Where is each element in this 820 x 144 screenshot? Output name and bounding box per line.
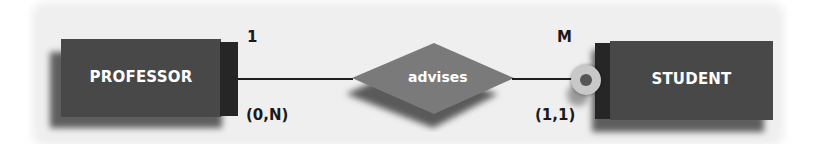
professor-entity-label: PROFESSOR xyxy=(61,68,221,86)
relationship-label: advises xyxy=(408,69,468,85)
left-participation-label: (0,N) xyxy=(246,106,288,124)
professor-relationship-line xyxy=(238,78,353,80)
student-entity-label: STUDENT xyxy=(610,70,773,88)
relationship-diamond-shape xyxy=(338,38,538,132)
advises-relationship: advises xyxy=(338,38,538,132)
right-cardinality-label: M xyxy=(557,28,572,46)
participation-marker-core xyxy=(580,74,592,86)
professor-entity-side xyxy=(220,42,238,116)
left-cardinality-label: 1 xyxy=(247,28,257,46)
student-relationship-line xyxy=(512,78,574,80)
right-participation-label: (1,1) xyxy=(535,106,575,124)
